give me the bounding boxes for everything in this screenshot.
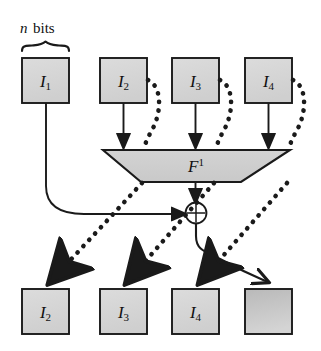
xor-gate: [186, 203, 207, 224]
dashed-shift-to-bottom: [51, 183, 287, 281]
bottom-row-boxes: [22, 289, 292, 334]
n-bits-caption: n bits: [20, 20, 55, 36]
dashed-i3-to-bottom-i3: [128, 183, 214, 281]
dashed-i4-to-bottom-i4: [201, 183, 287, 281]
n-bits-brace: [22, 42, 69, 52]
bottom-box-output: [245, 289, 292, 334]
n-bits-italic-n: n: [20, 20, 28, 36]
n-bits-word: bits: [33, 20, 55, 36]
top-row-boxes: [22, 58, 292, 103]
diagram-canvas: I1 I2 I3 I4 I2 I3 I4 F1 n bits: [0, 0, 321, 351]
feistel-network-diagram: I1 I2 I3 I4 I2 I3 I4 F1 n bits n bits F …: [0, 0, 321, 351]
dashed-i2-to-bottom-i2: [51, 183, 142, 281]
